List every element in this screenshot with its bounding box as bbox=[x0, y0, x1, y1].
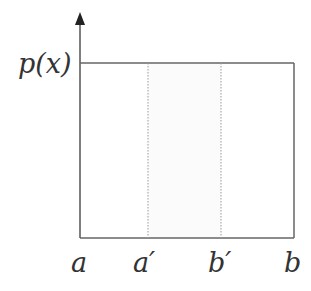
x-label-b-prime: b′ bbox=[208, 247, 231, 278]
sub-interval-shade bbox=[148, 63, 221, 238]
uniform-distribution-diagram: p(x) a a′ b′ b bbox=[0, 0, 311, 291]
x-label-b: b bbox=[284, 247, 301, 278]
y-axis-label: p(x) bbox=[18, 48, 72, 79]
x-label-a: a bbox=[71, 247, 87, 278]
x-label-a-prime: a′ bbox=[133, 247, 155, 278]
y-axis-arrow-icon bbox=[75, 12, 85, 25]
